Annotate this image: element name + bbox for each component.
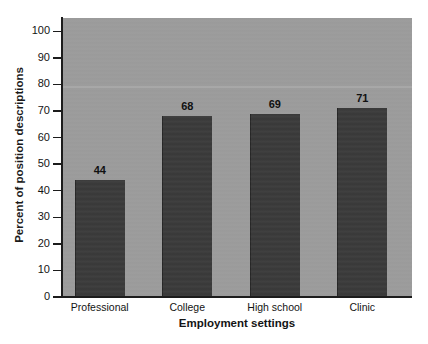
bar-chart-figure: Percent of position descriptions 0102030… bbox=[0, 0, 428, 344]
y-axis-tick bbox=[53, 137, 61, 139]
y-axis-tick-label-text: 70 bbox=[4, 105, 50, 116]
bar bbox=[337, 108, 387, 297]
y-axis-tick-label: 100 bbox=[0, 25, 50, 36]
y-axis-tick bbox=[53, 163, 61, 165]
y-axis-tick-label-text: 50 bbox=[4, 158, 50, 169]
y-axis-tick bbox=[53, 190, 61, 192]
x-axis-category-label: Professional bbox=[50, 301, 150, 314]
bar bbox=[162, 116, 212, 297]
y-axis-tick-label: 10 bbox=[0, 264, 50, 275]
bar bbox=[250, 114, 300, 297]
y-axis-tick bbox=[53, 243, 61, 245]
bar-value-label: 71 bbox=[332, 92, 392, 104]
y-axis-line bbox=[61, 17, 63, 298]
x-axis-category-label: High school bbox=[225, 301, 325, 314]
y-axis-tick bbox=[53, 296, 61, 298]
bar-texture bbox=[162, 116, 212, 297]
bar bbox=[75, 180, 125, 297]
y-axis-tick-label: 90 bbox=[0, 52, 50, 63]
y-axis-tick-label: 50 bbox=[0, 158, 50, 169]
y-axis-tick-label-text: 30 bbox=[4, 211, 50, 222]
y-axis-tick bbox=[53, 110, 61, 112]
y-axis-tick bbox=[53, 270, 61, 272]
x-axis-title: Employment settings bbox=[62, 317, 412, 329]
bar-texture bbox=[250, 114, 300, 297]
x-axis-line bbox=[61, 296, 412, 298]
x-axis-category-label: Clinic bbox=[312, 301, 412, 314]
y-axis-tick-label-text: 40 bbox=[4, 185, 50, 196]
y-axis-tick-label: 40 bbox=[0, 185, 50, 196]
bar-texture bbox=[337, 108, 387, 297]
bar-value-label: 44 bbox=[70, 164, 130, 176]
y-axis-tick-label: 0 bbox=[0, 291, 50, 302]
y-axis-tick bbox=[53, 57, 61, 59]
y-axis-title: Percent of position descriptions bbox=[10, 5, 28, 305]
plot-area bbox=[62, 18, 412, 297]
y-axis-tick-label-text: 80 bbox=[4, 78, 50, 89]
y-axis-tick-label: 70 bbox=[0, 105, 50, 116]
y-axis-tick-label: 60 bbox=[0, 132, 50, 143]
y-axis-tick-label: 20 bbox=[0, 238, 50, 249]
y-axis-tick bbox=[53, 31, 61, 33]
x-axis-category-label: College bbox=[137, 301, 237, 314]
y-axis-tick bbox=[53, 217, 61, 219]
bar-value-label: 68 bbox=[157, 100, 217, 112]
y-axis-tick-label-text: 0 bbox=[4, 291, 50, 302]
bar-value-label: 69 bbox=[245, 98, 305, 110]
y-axis-tick-label-text: 90 bbox=[4, 52, 50, 63]
y-axis-tick bbox=[53, 84, 61, 86]
y-axis-tick-label-text: 10 bbox=[4, 264, 50, 275]
y-axis-tick-label-text: 60 bbox=[4, 132, 50, 143]
bar-texture bbox=[75, 180, 125, 297]
y-axis-tick-label: 80 bbox=[0, 78, 50, 89]
y-axis-tick-label-text: 20 bbox=[4, 238, 50, 249]
y-axis-tick-label: 30 bbox=[0, 211, 50, 222]
y-axis-tick-label-text: 100 bbox=[4, 25, 50, 36]
